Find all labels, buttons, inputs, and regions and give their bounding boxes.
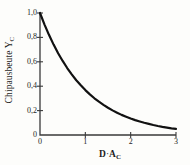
x-axis-title: D·AC	[40, 149, 180, 161]
data-series-line	[40, 13, 176, 129]
chart-figure: Chipausbeute YC 00,20,40,60,81,0 0123 D·…	[0, 0, 190, 165]
plot-area	[0, 0, 190, 165]
x-axis-title-subscript: C	[116, 153, 121, 161]
x-axis-title-first: D	[99, 149, 106, 159]
axis-lines	[40, 13, 176, 135]
x-axis-title-second: A	[109, 149, 116, 159]
